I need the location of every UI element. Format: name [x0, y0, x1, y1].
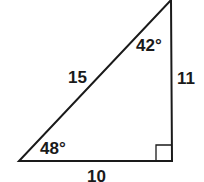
horizontal-leg-label: 10 [87, 167, 106, 182]
top-angle-label: 42° [136, 36, 162, 55]
triangle-diagram: 15 11 10 42° 48° [0, 0, 204, 182]
hypotenuse-label: 15 [68, 68, 87, 87]
right-angle-marker [156, 145, 172, 161]
triangle-outline [19, 0, 172, 161]
bottom-left-angle-label: 48° [40, 139, 66, 158]
vertical-leg-label: 11 [177, 69, 195, 88]
